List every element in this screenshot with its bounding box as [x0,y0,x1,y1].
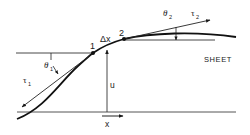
delta-x-label: Δx [100,34,111,44]
theta1-label: θ [44,60,49,70]
point-2-label: 2 [119,28,124,38]
theta2-label: θ [163,8,168,18]
sheet-label: SHEET [204,55,232,64]
tau1-label: τ [23,75,27,85]
tau2-arrow [124,20,210,39]
tau1-arrow [22,54,92,107]
sheet-curve [17,33,236,119]
tau2-subscript: 2 [196,14,199,20]
theta2-subscript: 2 [169,14,172,20]
u-label: u [110,80,115,90]
x-axis-label: x [105,119,110,129]
point-1-label: 1 [90,41,95,51]
theta1-pointer [53,66,58,74]
tau2-label: τ [191,8,195,18]
tau1-subscript: 1 [28,81,31,87]
point-1-marker [91,51,95,55]
theta1-subscript: 1 [50,66,53,72]
sheet-deflection-diagram: 1 2 Δx θ 1 θ 2 τ 1 τ 2 u x SHEET [0,0,250,135]
